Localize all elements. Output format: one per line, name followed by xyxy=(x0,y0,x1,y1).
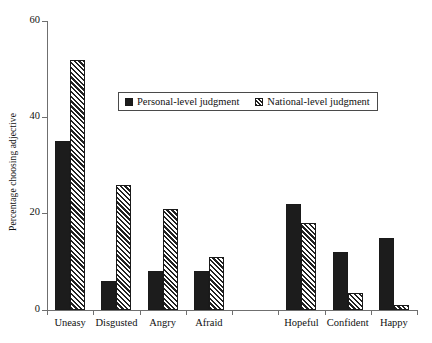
legend: Personal-level judgment National-level j… xyxy=(118,92,378,111)
x-tick-mark-2 xyxy=(140,310,141,315)
bar-chart: Percentage choosing adjective 60 40 20 0… xyxy=(0,0,432,343)
y-tick-label-20: 20 xyxy=(6,206,40,217)
legend-label-personal: Personal-level judgment xyxy=(137,96,239,107)
x-category-label-angry: Angry xyxy=(149,317,176,328)
x-tick-mark-7 xyxy=(371,310,372,315)
bar-disgusted-personal xyxy=(101,281,116,310)
x-category-label-hopeful: Hopeful xyxy=(284,317,318,328)
bar-disgusted-national xyxy=(116,185,131,310)
x-category-label-uneasy: Uneasy xyxy=(54,317,86,328)
bar-uneasy-national xyxy=(70,60,85,310)
x-category-label-happy: Happy xyxy=(380,317,408,328)
x-tick-mark-0 xyxy=(47,310,48,315)
x-tick-mark-5 xyxy=(278,310,279,315)
bar-confident-national xyxy=(348,293,363,310)
bar-confident-personal xyxy=(333,252,348,310)
x-category-label-afraid: Afraid xyxy=(195,317,222,328)
bar-angry-personal xyxy=(148,271,163,310)
legend-item-national: National-level judgment xyxy=(255,96,369,107)
x-tick-mark-8 xyxy=(417,310,418,315)
plot-area xyxy=(47,21,417,310)
bar-happy-personal xyxy=(379,238,394,310)
x-category-label-confident: Confident xyxy=(327,317,369,328)
y-tick-label-40: 40 xyxy=(6,110,40,121)
y-tick-label-60: 60 xyxy=(6,14,40,25)
x-tick-mark-4 xyxy=(232,310,233,315)
y-axis-title: Percentage choosing adjective xyxy=(4,0,22,343)
x-tick-mark-3 xyxy=(186,310,187,315)
x-category-label-disgusted: Disgusted xyxy=(95,317,137,328)
bar-hopeful-personal xyxy=(286,204,301,310)
x-tick-mark-6 xyxy=(325,310,326,315)
y-tick-label-0: 0 xyxy=(6,303,40,314)
bar-afraid-national xyxy=(209,257,224,310)
bar-angry-national xyxy=(163,209,178,310)
x-tick-mark-1 xyxy=(93,310,94,315)
legend-swatch-personal-icon xyxy=(125,98,133,106)
legend-label-national: National-level judgment xyxy=(267,96,369,107)
bar-hopeful-national xyxy=(301,223,316,310)
bar-uneasy-personal xyxy=(55,141,70,310)
bar-afraid-personal xyxy=(194,271,209,310)
legend-swatch-national-icon xyxy=(255,98,263,106)
legend-item-personal: Personal-level judgment xyxy=(125,96,239,107)
